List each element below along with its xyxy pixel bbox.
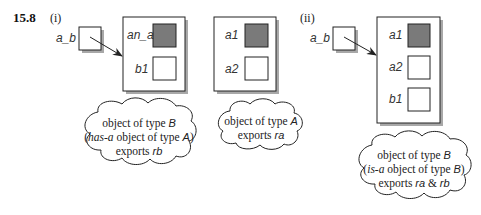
- panel-i-cloud-a-text: object of type A exports ra: [220, 114, 302, 142]
- panel-i-pointer-box: [79, 27, 104, 53]
- slot-label-a1: a1: [389, 28, 402, 42]
- panel-i-object-a: [214, 17, 279, 94]
- slot-a1: [245, 24, 268, 47]
- panel-i-label: (i): [50, 11, 61, 26]
- panel-ii-object-b: [377, 17, 443, 126]
- slot-b1: [153, 57, 176, 80]
- slot-label-b1: b1: [389, 92, 402, 106]
- slot-label-b1: b1: [135, 62, 148, 76]
- slot-a2: [408, 56, 430, 79]
- slot-a1: [408, 24, 430, 47]
- panel-i-cloud-b-text: object of type B (has-a object of type A…: [84, 116, 194, 158]
- panel-ii-pointer-label: a_b: [310, 31, 330, 45]
- figure-number: 15.8: [13, 10, 36, 26]
- slot-label-a1: a1: [225, 28, 238, 42]
- panel-ii-pointer-box: [333, 27, 358, 53]
- slot-an-a: [153, 24, 176, 47]
- slot-a2: [245, 57, 268, 80]
- slot-label-a2: a2: [389, 60, 402, 74]
- panel-ii-cloud-b-text: object of type B (is-a object of type B)…: [358, 148, 470, 190]
- slot-b1: [408, 88, 430, 111]
- panel-ii-label: (ii): [300, 11, 315, 26]
- slot-label-a2: a2: [225, 62, 238, 76]
- slot-label-an-a: an_a: [127, 28, 154, 42]
- panel-i-pointer-label: a_b: [56, 31, 76, 45]
